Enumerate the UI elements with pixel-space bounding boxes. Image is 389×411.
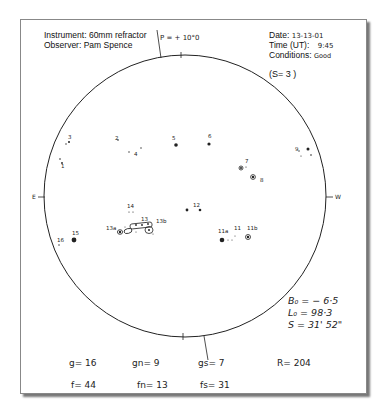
west-label: W: [335, 193, 341, 200]
gs-count: gs= 7: [198, 358, 225, 368]
svg-text:4: 4: [134, 151, 138, 157]
g-count: g= 16: [69, 358, 97, 368]
svg-text:13a: 13a: [106, 225, 116, 231]
f-count: f= 44: [71, 380, 96, 390]
svg-text:6: 6: [208, 133, 212, 139]
fn-count: fn= 13: [137, 380, 168, 390]
svg-text:11b: 11b: [247, 225, 258, 231]
svg-text:1: 1: [61, 163, 65, 169]
gn-count: gn= 9: [132, 358, 160, 368]
svg-text:15: 15: [72, 230, 79, 236]
svg-text:14: 14: [127, 203, 134, 209]
p-angle-line: [157, 30, 161, 58]
svg-text:7: 7: [245, 158, 249, 164]
svg-text:3: 3: [68, 134, 72, 140]
fs-count: fs= 31: [200, 380, 230, 390]
svg-text:11: 11: [234, 225, 241, 231]
svg-text:11a: 11a: [218, 228, 228, 234]
solar-disk-drawing: 1 3 2 4 5 6 7 8 9 12 11a 11 11b: [0, 0, 389, 411]
gs-pointer-line: [204, 336, 208, 360]
svg-text:13: 13: [141, 216, 148, 222]
s-value: S = 31' 52": [288, 320, 342, 330]
svg-text:16: 16: [57, 237, 64, 243]
b0-value: B₀ = − 6·5: [288, 296, 338, 306]
svg-text:5: 5: [172, 135, 176, 141]
sunspot-groups: 1 3 2 4 5 6 7 8 9 12 11a 11 11b: [57, 133, 312, 246]
east-label: E: [32, 193, 36, 200]
svg-text:8: 8: [260, 177, 264, 183]
svg-text:12: 12: [193, 202, 200, 208]
l0-value: L₀ = 98·3: [288, 308, 332, 318]
r-count: R= 204: [277, 358, 311, 368]
solar-disk: [44, 55, 326, 337]
svg-text:13b: 13b: [156, 218, 167, 224]
